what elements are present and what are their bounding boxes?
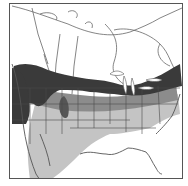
map-frame	[9, 3, 183, 179]
range-map	[10, 4, 183, 179]
